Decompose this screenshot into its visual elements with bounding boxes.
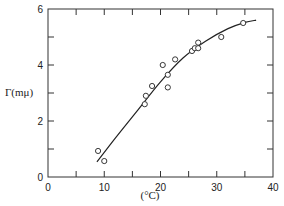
y-tick-label: 6 (37, 4, 43, 15)
data-point (142, 102, 147, 107)
tick-labels: 0102030400246 (37, 4, 279, 193)
data-point (102, 158, 107, 163)
data-point (95, 148, 100, 153)
y-tick-label: 0 (37, 172, 43, 183)
chart: 0102030400246 Γ(mμ) (°C) (0, 0, 284, 206)
x-tick-label: 30 (211, 182, 223, 193)
y-tick-label: 2 (37, 116, 43, 127)
x-tick-label: 0 (45, 182, 51, 193)
fitted-curve (97, 20, 256, 162)
data-point (241, 20, 246, 25)
data-point (165, 85, 170, 90)
y-axis-label: Γ(mμ) (5, 86, 33, 99)
data-point (165, 72, 170, 77)
data-points (95, 20, 245, 163)
data-point (149, 83, 154, 88)
data-point (196, 40, 201, 45)
axis-ticks (48, 9, 273, 177)
data-point (219, 34, 224, 39)
data-point (196, 46, 201, 51)
data-point (160, 62, 165, 67)
y-tick-label: 4 (37, 60, 43, 71)
data-point (143, 93, 148, 98)
x-tick-label: 10 (99, 182, 111, 193)
x-tick-label: 40 (267, 182, 279, 193)
data-point (173, 57, 178, 62)
plot-frame (48, 9, 273, 177)
x-axis-label: (°C) (140, 189, 159, 202)
